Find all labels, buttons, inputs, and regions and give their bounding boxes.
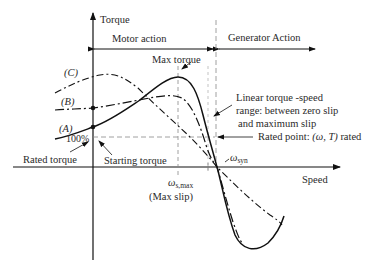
y-axis-label: Torque [100, 14, 130, 26]
linear-range-label-1: Linear torque -speed [236, 92, 323, 104]
linear-range-leader [214, 105, 232, 116]
rated-point-tuple: (ω, T) [312, 131, 338, 142]
curve-c-label: (C) [64, 67, 78, 79]
starting-torque-leader [99, 141, 112, 155]
curve-b-label: (B) [61, 96, 74, 108]
rated-point-label: Rated point: (ω, T) rated [258, 131, 361, 143]
starting-torque-label: Starting torque [104, 155, 167, 167]
linear-range-label-3: and maximum slip [238, 118, 316, 130]
curve-b-start-point [91, 106, 96, 111]
curve-b [55, 96, 242, 243]
x-axis-label: Speed [302, 174, 328, 186]
omega-smax-sub: s,max [175, 181, 193, 190]
motor-action-label: Motor action [112, 33, 167, 45]
omega-smax-label: ωs,max [168, 177, 193, 192]
max-slip-label: (Max slip) [149, 191, 193, 203]
generator-action-label: Generator Action [228, 32, 301, 44]
max-torque-label: Max torque [152, 54, 201, 66]
omega-syn-sub: syn [237, 156, 247, 165]
omega-syn-leader [225, 159, 229, 162]
rated-torque-label: Rated torque [23, 154, 77, 166]
omega-syn-label: ωsyn [230, 152, 248, 167]
percent-100-label: 100% [66, 133, 89, 145]
rated-point-prefix: Rated point: [258, 131, 310, 142]
curve-a-start-point [91, 125, 96, 130]
linear-range-label-2: range: between zero slip [236, 105, 338, 117]
rated-point-suffix: rated [340, 131, 361, 142]
